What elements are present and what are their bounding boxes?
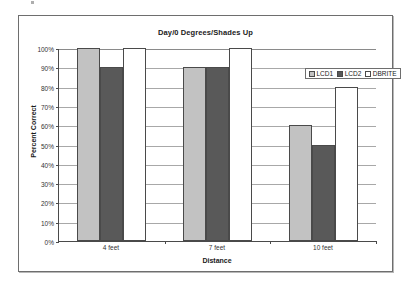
bar-lcd1-7-feet[interactable] xyxy=(183,67,206,241)
bar-lcd2-4-feet[interactable] xyxy=(100,67,123,241)
bar-dbrite-10-feet[interactable] xyxy=(335,87,358,241)
legend-swatch-icon xyxy=(365,71,371,77)
y-axis-title: Percent Correct xyxy=(30,92,37,172)
y-axis-tick-label: 90% xyxy=(41,65,54,72)
y-axis-tick xyxy=(56,242,59,243)
legend-label: LCD1 xyxy=(317,70,334,77)
bar-group xyxy=(165,49,271,241)
y-axis-tick-label: 50% xyxy=(41,142,54,149)
chart-title: Day/0 Degrees/Shades Up xyxy=(19,28,392,37)
y-axis-tick-label: 20% xyxy=(41,200,54,207)
y-axis-tick-label: 80% xyxy=(41,84,54,91)
legend-entry-dbrite[interactable]: DBRITE xyxy=(365,70,396,77)
legend-swatch-icon xyxy=(337,71,343,77)
y-axis-tick-label: 10% xyxy=(41,219,54,226)
chart-legend: LCD1LCD2DBRITE xyxy=(305,68,401,79)
y-axis-tick-label: 70% xyxy=(41,103,54,110)
bar-lcd1-4-feet[interactable] xyxy=(77,48,100,241)
y-axis-tick-label: 40% xyxy=(41,161,54,168)
legend-label: LCD2 xyxy=(345,70,362,77)
y-axis-tick-label: 30% xyxy=(41,181,54,188)
y-axis-tick-label: 100% xyxy=(37,46,54,53)
x-axis-title: Distance xyxy=(58,257,376,264)
bar-dbrite-4-feet[interactable] xyxy=(123,48,146,241)
legend-entry-lcd1[interactable]: LCD1 xyxy=(309,70,333,77)
bar-dbrite-7-feet[interactable] xyxy=(229,48,252,241)
bar-lcd2-10-feet[interactable] xyxy=(312,145,335,242)
legend-entry-lcd2[interactable]: LCD2 xyxy=(337,70,361,77)
x-axis-category-labels: 4 feet7 feet10 feet xyxy=(58,244,376,251)
y-axis-tick-label: 60% xyxy=(41,123,54,130)
x-axis-category-label: 7 feet xyxy=(164,244,270,251)
legend-label: DBRITE xyxy=(373,70,397,77)
legend-swatch-icon xyxy=(309,71,315,77)
bar-lcd2-7-feet[interactable] xyxy=(206,67,229,241)
x-axis-category-label: 10 feet xyxy=(270,244,376,251)
x-axis-category-label: 4 feet xyxy=(58,244,164,251)
bar-group xyxy=(59,49,165,241)
bar-lcd1-10-feet[interactable] xyxy=(289,125,312,241)
image-artifact-speck xyxy=(31,1,34,4)
x-axis-category-separator xyxy=(376,241,377,244)
y-axis-tick-label: 0% xyxy=(45,239,54,246)
chart-frame: Day/0 Degrees/Shades Up Percent Correct … xyxy=(18,15,393,272)
